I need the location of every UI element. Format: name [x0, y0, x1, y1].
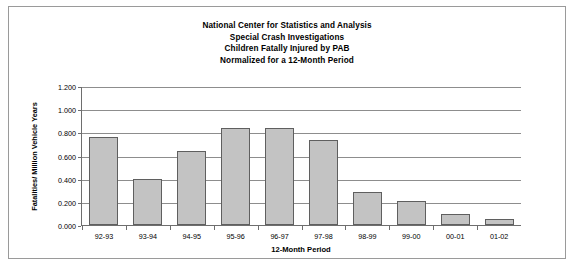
x-axis-ticks: 92-9393-9494-9595-9696-9797-9898-9999-00… [82, 226, 521, 241]
x-axis-tick-label: 94-95 [170, 232, 214, 241]
y-axis-tick-label: 0.800 [58, 129, 76, 138]
plot-frame [81, 87, 521, 226]
chart-title-line-1: National Center for Statistics and Analy… [9, 20, 565, 32]
chart-title-block: National Center for Statistics and Analy… [9, 20, 565, 66]
x-axis-tick-label: 92-93 [82, 232, 126, 241]
x-axis-tick-mark [433, 226, 434, 230]
x-axis-tick-mark [82, 226, 83, 230]
x-axis-title: 12-Month Period [81, 245, 521, 254]
x-axis-tick-mark [214, 226, 215, 230]
y-axis-tick-label: 0.400 [58, 175, 76, 184]
x-axis-tick: 98-99 [345, 226, 389, 241]
x-axis-tick-mark [170, 226, 171, 230]
chart-figure: National Center for Statistics and Analy… [8, 6, 566, 259]
x-axis-tick: 99-00 [389, 226, 433, 241]
x-axis-tick-mark [302, 226, 303, 230]
y-axis-tick-label: 0.200 [58, 198, 76, 207]
y-axis-tick-label: 1.000 [58, 106, 76, 115]
x-axis-tick-label: 97-98 [302, 232, 346, 241]
x-axis-tick-mark [126, 226, 127, 230]
chart-title-line-2: Special Crash Investigations [9, 32, 565, 44]
chart-title-line-4: Normalized for a 12-Month Period [9, 55, 565, 67]
x-axis-tick: 93-94 [126, 226, 170, 241]
x-axis-tick-mark [258, 226, 259, 230]
x-axis-tick: 96-97 [258, 226, 302, 241]
y-axis-tick-label: 0.000 [58, 222, 76, 231]
y-axis-tick-label: 0.600 [58, 152, 76, 161]
x-axis-tick: 92-93 [82, 226, 126, 241]
x-axis-tick: 97-98 [302, 226, 346, 241]
y-axis-tick-mark [78, 226, 81, 227]
x-axis-tick-label: 95-96 [214, 232, 258, 241]
x-axis-tick-label: 98-99 [345, 232, 389, 241]
x-axis-tick-label: 93-94 [126, 232, 170, 241]
y-axis-title: Fatalities/ Million Vehicle Years [29, 87, 41, 226]
chart-title-line-3: Children Fatally Injured by PAB [9, 43, 565, 55]
x-axis-tick: 01-02 [477, 226, 521, 241]
x-axis-tick-label: 00-01 [433, 232, 477, 241]
x-axis-tick-mark [389, 226, 390, 230]
x-axis-tick-mark [345, 226, 346, 230]
y-axis-tick-label: 1.200 [58, 83, 76, 92]
plot-area: 0.0000.2000.4000.6000.8001.0001.200 92-9… [81, 87, 521, 226]
x-axis-tick: 95-96 [214, 226, 258, 241]
x-axis-tick: 94-95 [170, 226, 214, 241]
x-axis-tick-mark [477, 226, 478, 230]
x-axis-tick-label: 99-00 [389, 232, 433, 241]
x-axis-tick-label: 96-97 [258, 232, 302, 241]
x-axis-tick-label: 01-02 [477, 232, 521, 241]
x-axis-tick: 00-01 [433, 226, 477, 241]
